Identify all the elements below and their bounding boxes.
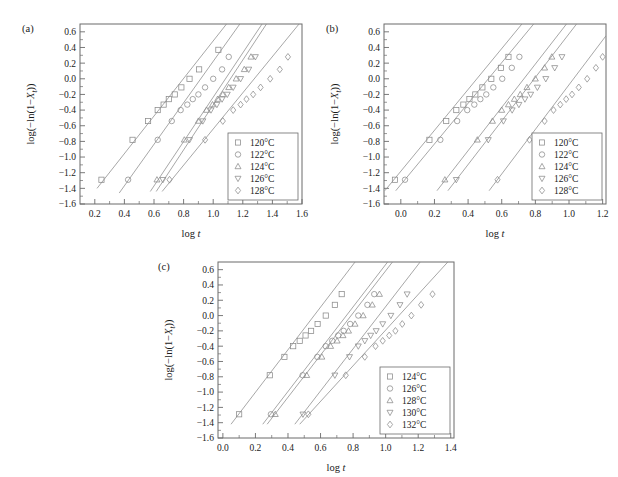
x-tick-label: 0.6: [315, 443, 327, 453]
plot-c: (c)0.00.20.40.60.81.01.21.40.60.40.20.0−…: [152, 252, 462, 474]
data-point: [600, 53, 605, 60]
data-point: [99, 177, 104, 182]
legend-label: 128°C: [554, 186, 578, 196]
data-point: [376, 291, 382, 296]
legend-label: 120°C: [554, 138, 578, 148]
fit-line: [119, 24, 240, 193]
legend-label: 124°C: [402, 372, 426, 382]
data-point: [543, 77, 549, 82]
data-point: [472, 102, 477, 107]
data-point: [155, 137, 160, 142]
legend-label: 128°C: [402, 396, 426, 406]
data-point: [465, 107, 470, 112]
data-point: [179, 85, 184, 90]
data-point: [505, 101, 511, 106]
data-point: [372, 291, 377, 296]
data-point: [419, 301, 424, 308]
data-point: [454, 107, 459, 112]
data-point: [297, 338, 302, 343]
y-tick-label: −0.6: [197, 357, 214, 367]
y-tick-label: −0.2: [59, 90, 76, 100]
data-point: [404, 292, 410, 297]
y-tick-label: 0.6: [64, 27, 76, 37]
y-tick-label: 0.0: [368, 74, 380, 84]
data-point: [438, 137, 443, 142]
x-tick-label: 1.2: [412, 443, 424, 453]
y-tick-label: −1.4: [197, 418, 214, 428]
data-point: [552, 66, 558, 71]
data-point: [285, 53, 290, 60]
y-tick-label: −0.8: [59, 137, 76, 147]
x-axis-title: log t: [327, 462, 347, 473]
x-tick-label: 1.2: [237, 209, 249, 219]
data-point: [564, 96, 569, 103]
data-point: [454, 118, 459, 123]
legend: 120°C122°C124°C126°C128°C: [532, 133, 602, 200]
data-point: [368, 333, 374, 338]
data-point: [427, 137, 432, 142]
y-tick-label: −1.6: [59, 199, 76, 209]
data-point: [291, 344, 296, 349]
data-point: [393, 327, 398, 334]
y-tick-label: 0.2: [202, 296, 214, 306]
legend-label: 126°C: [250, 174, 274, 184]
data-point: [484, 92, 489, 97]
data-point: [238, 101, 243, 108]
data-point: [219, 67, 224, 72]
x-tick-label: 0.8: [178, 209, 190, 219]
y-tick-label: 0.6: [368, 27, 380, 37]
data-point: [226, 54, 231, 59]
y-tick-label: −1.4: [363, 184, 380, 194]
x-tick-label: 1.0: [207, 209, 219, 219]
x-axis-title: log t: [486, 228, 506, 239]
legend-label: 122°C: [554, 150, 578, 160]
x-axis-title: log t: [182, 228, 202, 239]
legend: 124°C126°C128°C130°C132°C: [380, 367, 450, 434]
y-tick-label: −0.6: [59, 121, 76, 131]
data-point: [576, 84, 581, 91]
series-122C: [119, 24, 240, 193]
legend-label: 130°C: [402, 408, 426, 418]
y-tick-label: −1.4: [59, 184, 76, 194]
x-tick-label: 0.8: [347, 443, 359, 453]
data-point: [380, 322, 386, 327]
plot-b: (b)0.00.20.40.60.81.01.20.60.40.20.0−0.2…: [322, 14, 614, 240]
x-tick-label: 1.6: [296, 209, 308, 219]
data-point: [339, 292, 344, 297]
y-tick-label: −0.8: [197, 372, 214, 382]
panel-label: (a): [22, 23, 34, 35]
data-point: [258, 84, 263, 91]
data-point: [388, 313, 394, 318]
x-tick-label: 0.0: [217, 443, 229, 453]
data-point: [517, 54, 522, 59]
data-point: [509, 65, 514, 70]
panel-c: (c)0.00.20.40.60.81.01.21.40.60.40.20.0−…: [152, 252, 462, 474]
data-point: [491, 85, 496, 90]
y-tick-label: −1.6: [363, 199, 380, 209]
y-axis-title: log(−ln(1−Xt)): [25, 83, 39, 145]
y-tick-label: −0.2: [197, 326, 214, 336]
y-axis-ticks: 0.60.40.20.0−0.2−0.4−0.6−0.8−1.0−1.2−1.4…: [59, 27, 85, 209]
fit-line: [263, 262, 388, 424]
data-point: [251, 91, 256, 98]
data-point: [522, 97, 528, 102]
legend-label: 124°C: [250, 162, 274, 172]
x-tick-label: 1.0: [380, 443, 392, 453]
data-point: [277, 66, 282, 73]
x-tick-label: 0.0: [395, 209, 407, 219]
y-tick-label: 0.2: [64, 59, 76, 69]
legend-label: 132°C: [402, 420, 426, 430]
y-axis-title: log(−ln(1−Xt)): [163, 319, 177, 381]
legend-label: 120°C: [250, 138, 274, 148]
x-tick-label: 0.2: [249, 443, 261, 453]
data-point: [220, 118, 225, 125]
data-point: [373, 343, 378, 350]
y-tick-label: −1.2: [363, 168, 380, 178]
y-tick-label: −1.0: [363, 152, 380, 162]
y-tick-label: −0.4: [363, 105, 380, 115]
data-point: [187, 76, 192, 81]
panel-a: (a)0.20.40.60.81.01.21.41.60.60.40.20.0−…: [18, 14, 310, 240]
data-point: [210, 76, 215, 81]
data-point: [347, 355, 353, 360]
data-point: [387, 332, 392, 339]
